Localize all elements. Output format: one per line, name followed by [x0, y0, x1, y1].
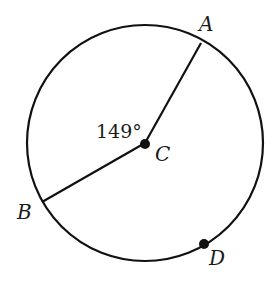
point-d [199, 239, 209, 249]
label-a: A [197, 12, 213, 36]
label-c: C [155, 142, 170, 166]
circle-diagram: 149° C A B D [0, 0, 276, 281]
radius-cb [42, 143, 145, 202]
angle-label: 149° [96, 120, 142, 142]
radius-ca [145, 43, 201, 143]
label-d: D [208, 246, 225, 270]
label-b: B [16, 200, 32, 224]
